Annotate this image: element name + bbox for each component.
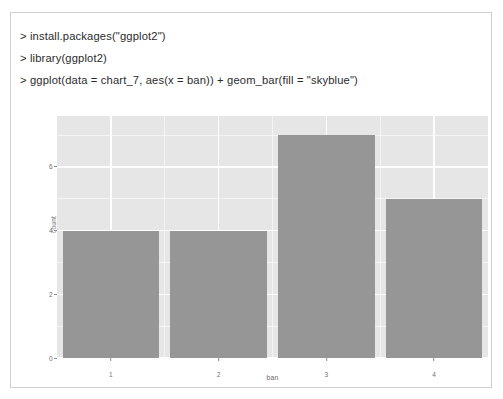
gridline-minor-vertical xyxy=(164,116,165,358)
console-line-1: > install.packages("ggplot2") xyxy=(20,25,460,47)
y-tick-label: 6 xyxy=(49,163,53,170)
bar-4 xyxy=(386,199,482,358)
scanned-page-frame: > install.packages("ggplot2") > library(… xyxy=(10,12,492,388)
plot-panel xyxy=(57,116,488,358)
y-tick-0: 0 xyxy=(49,354,57,362)
r-console-block: > install.packages("ggplot2") > library(… xyxy=(20,25,460,91)
x-tick-mark xyxy=(326,358,327,361)
console-line-2: > library(ggplot2) xyxy=(20,47,460,69)
x-axis: 1234 xyxy=(57,358,488,374)
bar-2 xyxy=(170,231,266,358)
y-tick-2: 2 xyxy=(49,290,57,298)
y-axis: 0246 xyxy=(35,103,57,361)
y-tick-label: 0 xyxy=(49,355,53,362)
y-tick-label: 4 xyxy=(49,227,53,234)
console-line-3: > ggplot(data = chart_7, aes(x = ban)) +… xyxy=(20,69,460,91)
x-tick-mark xyxy=(434,358,435,361)
x-axis-title: ban xyxy=(57,374,488,381)
y-tick-4: 4 xyxy=(49,227,57,235)
bar-3 xyxy=(278,135,374,358)
y-tick-6: 6 xyxy=(49,163,57,171)
y-tick-label: 2 xyxy=(49,291,53,298)
bar-1 xyxy=(63,231,159,358)
x-tick-mark xyxy=(218,358,219,361)
gridline-minor-vertical xyxy=(272,116,273,358)
x-tick-mark xyxy=(110,358,111,361)
gridline-minor-vertical xyxy=(380,116,381,358)
ggplot-figure: count 0246 1234 ban xyxy=(35,103,490,385)
